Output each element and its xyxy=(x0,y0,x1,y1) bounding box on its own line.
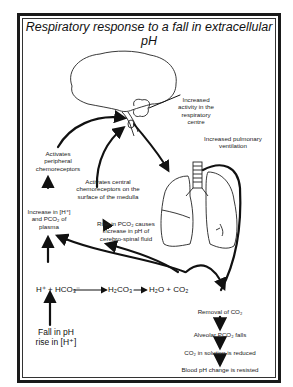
label-line: Fall in pH xyxy=(30,327,82,337)
label-line: Increased pulmonary xyxy=(193,135,273,142)
label-line: chemoreceptors on the xyxy=(76,185,140,192)
label-line: surface of the medulla xyxy=(76,193,140,200)
label-line: centre xyxy=(168,118,224,125)
label-line: activity in the xyxy=(168,103,224,110)
label-line: rise in [H⁺] xyxy=(30,337,82,347)
label-line: cerebro-spinal fluid xyxy=(93,235,159,242)
label-central-chemoreceptors: Activates central chemoreceptors on the … xyxy=(76,178,140,200)
cascade-step-4: Blood pH change is resisted xyxy=(170,366,270,373)
label-line: Rise in PCO₂ causes xyxy=(93,220,159,227)
equation-reactants: H⁺ + HCO₃⁻ xyxy=(36,285,80,294)
label-pulmonary-ventilation: Increased pulmonary ventilation xyxy=(193,135,273,150)
label-line: ventilation xyxy=(193,142,273,149)
label-line: Increased xyxy=(168,96,224,103)
label-increase-h-pco2: Increase in [H⁺] and PCO₂ of plasma xyxy=(23,208,75,230)
label-respiratory-centre: Increased activity in the respiratory ce… xyxy=(168,96,224,126)
cascade-step-2: Alveolar PCO₂ falls xyxy=(176,331,264,338)
label-fall-in-ph: Fall in pH rise in [H⁺] xyxy=(30,327,82,347)
label-line: Activates xyxy=(30,150,86,157)
cascade-step-1: Removal of CO₂ xyxy=(180,308,260,315)
equation-intermediate: H₂CO₃ xyxy=(108,285,132,294)
lungs-icon xyxy=(161,162,237,248)
label-line: plasma xyxy=(23,223,75,230)
equation-products: H₂O + CO₂ xyxy=(149,285,188,294)
label-line: peripheral xyxy=(30,157,86,164)
label-peripheral-chemoreceptors: Activates peripheral chemoreceptors xyxy=(30,150,86,172)
label-line: and PCO₂ of xyxy=(23,215,75,222)
label-line: chemoreceptors xyxy=(30,165,86,172)
cascade-step-3: CO₂ in solution is reduced xyxy=(170,349,270,356)
label-line: Activates central xyxy=(76,178,140,185)
label-rise-pco2-csf: Rise in PCO₂ causes increase in pH of ce… xyxy=(93,220,159,242)
label-line: Increase in [H⁺] xyxy=(23,208,75,215)
label-line: increase in pH of xyxy=(93,227,159,234)
label-line: respiratory xyxy=(168,111,224,118)
